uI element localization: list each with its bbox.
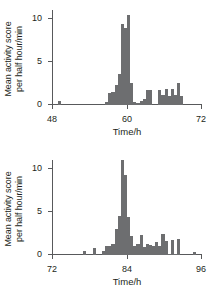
histogram-bar (149, 90, 152, 105)
x-tick-top-72: 72 (201, 105, 202, 109)
y-tick-label-bottom-0: 0 (37, 250, 42, 259)
y-axis-title-line1: Mean activity score (3, 157, 14, 261)
y-tick-label-top-5: 5 (37, 56, 42, 65)
histogram-bar (171, 240, 174, 255)
histogram-bar (83, 251, 86, 255)
chart-panel-bottom: Mean activity score per half hour/min 0 … (0, 150, 217, 299)
y-axis-title-line2: per half hour/min (14, 157, 25, 261)
histogram-bars-top (52, 10, 202, 105)
y-tick-label-bottom-10: 10 (32, 163, 42, 172)
y-tick-label-bottom-5: 5 (37, 206, 42, 215)
x-tick-top-60: 60 (127, 105, 128, 109)
histogram-bar (193, 252, 196, 255)
y-axis-title-line1: Mean activity score (3, 7, 14, 111)
activity-histogram-figure: Mean activity score per half hour/min 0 … (0, 0, 217, 299)
x-axis-title-top: Time/h (52, 126, 202, 137)
y-tick-label-top-10: 10 (32, 13, 42, 22)
chart-panel-top: Mean activity score per half hour/min 0 … (0, 0, 217, 149)
x-tick-bottom-96: 96 (201, 255, 202, 259)
x-tick-bottom-84: 84 (127, 255, 128, 259)
y-tick-label-top-0: 0 (37, 100, 42, 109)
x-axis-title-bottom: Time/h (52, 276, 202, 287)
histogram-bars-bottom (52, 160, 202, 255)
histogram-bar (58, 101, 61, 105)
x-tick-label-top-60: 60 (122, 115, 132, 124)
plot-area-top: 0 5 10 48 60 72 (52, 10, 202, 105)
x-tick-top-48: 48 (52, 105, 53, 109)
y-axis-title-line2: per half hour/min (14, 7, 25, 111)
y-axis-title-top: Mean activity score per half hour/min (3, 7, 33, 111)
histogram-bar (180, 96, 183, 106)
histogram-bar (93, 248, 96, 255)
x-tick-label-bottom-96: 96 (196, 265, 206, 274)
histogram-bar (177, 239, 180, 255)
x-tick-bottom-72: 72 (52, 255, 53, 259)
x-tick-label-bottom-72: 72 (47, 265, 57, 274)
x-tick-label-top-72: 72 (196, 115, 206, 124)
x-tick-label-top-48: 48 (47, 115, 57, 124)
x-tick-label-bottom-84: 84 (122, 265, 132, 274)
y-axis-title-bottom: Mean activity score per half hour/min (3, 157, 33, 261)
plot-area-bottom: 0 5 10 72 84 96 (52, 160, 202, 255)
